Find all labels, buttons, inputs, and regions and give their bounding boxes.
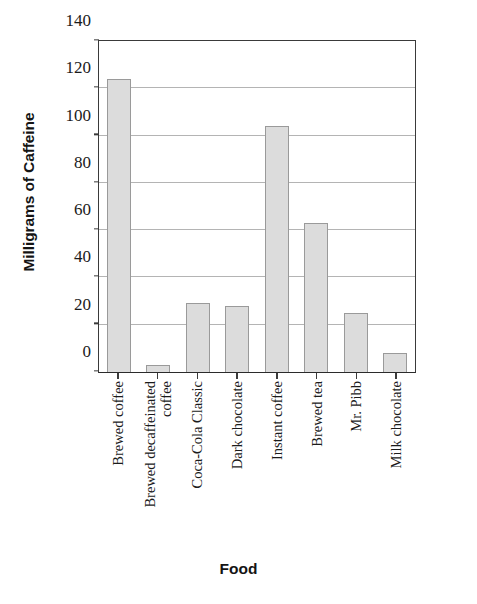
x-tick-label: Brewed coffee xyxy=(110,381,126,466)
bar-slot xyxy=(336,41,376,372)
x-tick-label: Mr. Pibb xyxy=(348,381,364,432)
bar-slot xyxy=(376,41,416,372)
x-axis-ticks xyxy=(98,373,416,379)
x-tick-mark xyxy=(356,373,357,379)
x-axis-category-labels: Brewed coffeeBrewed decaffeinated coffee… xyxy=(98,381,416,541)
y-tick-label: 60 xyxy=(74,200,91,220)
x-tick-mark xyxy=(197,373,198,379)
plot-area: 020406080100120140 xyxy=(98,40,416,373)
y-tick-label: 140 xyxy=(66,11,92,31)
x-tick-slot xyxy=(178,373,218,379)
y-tick-label: 20 xyxy=(74,295,91,315)
y-tick-label: 40 xyxy=(74,247,91,267)
bar xyxy=(304,223,328,372)
x-label-slot: Mr. Pibb xyxy=(337,381,377,541)
x-label-slot: Brewed decaffeinated coffee xyxy=(138,381,178,541)
bar xyxy=(265,126,289,372)
bar-slot xyxy=(99,41,139,372)
bar-slot xyxy=(257,41,297,372)
x-tick-label: Dark chocolate xyxy=(229,381,245,469)
x-label-slot: Milk chocolate xyxy=(376,381,416,541)
y-tick-label: 100 xyxy=(66,106,92,126)
bar-chart-figure: Milligrams of Caffeine 02040608010012014… xyxy=(0,0,477,604)
bar-slot xyxy=(139,41,179,372)
x-tick-slot xyxy=(138,373,178,379)
x-tick-label: Milk chocolate xyxy=(388,381,404,468)
x-tick-mark xyxy=(117,373,118,379)
x-tick-label: Instant coffee xyxy=(269,381,285,460)
x-label-slot: Coca-Cola Classic xyxy=(178,381,218,541)
x-tick-slot xyxy=(297,373,337,379)
bar-slot xyxy=(178,41,218,372)
x-axis-title: Food xyxy=(0,560,477,578)
x-tick-mark xyxy=(236,373,237,379)
x-tick-slot xyxy=(376,373,416,379)
bar-slot xyxy=(218,41,258,372)
x-label-slot: Dark chocolate xyxy=(217,381,257,541)
bar xyxy=(383,353,407,372)
x-tick-slot xyxy=(337,373,377,379)
bar xyxy=(146,365,170,372)
x-label-slot: Brewed coffee xyxy=(98,381,138,541)
x-tick-mark xyxy=(395,373,396,379)
bar xyxy=(344,313,368,372)
bar xyxy=(225,306,249,372)
bar xyxy=(186,303,210,372)
x-tick-slot xyxy=(98,373,138,379)
x-tick-label: Coca-Cola Classic xyxy=(189,381,205,489)
bar xyxy=(107,79,131,372)
x-label-slot: Instant coffee xyxy=(257,381,297,541)
x-tick-label: Brewed tea xyxy=(309,381,325,447)
x-tick-slot xyxy=(257,373,297,379)
x-label-slot: Brewed tea xyxy=(297,381,337,541)
x-tick-mark xyxy=(276,373,277,379)
x-tick-mark xyxy=(316,373,317,379)
x-tick-label: Brewed decaffeinated coffee xyxy=(142,381,174,508)
x-tick-mark xyxy=(157,373,158,379)
y-tick-label: 80 xyxy=(74,153,91,173)
bar-slot xyxy=(297,41,337,372)
y-tick-label: 120 xyxy=(66,58,92,78)
bar-series xyxy=(99,41,415,372)
x-tick-slot xyxy=(217,373,257,379)
y-tick-label: 0 xyxy=(83,342,92,362)
y-axis-title: Milligrams of Caffeine xyxy=(20,77,38,307)
